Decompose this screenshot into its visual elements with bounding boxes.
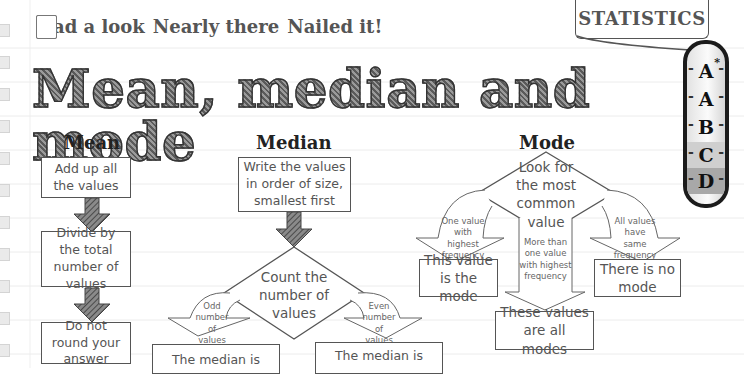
mean-step-2: Divide by the total number of values [41,231,131,287]
mode-result-one: This value is the mode [419,259,498,297]
mode-result-all: There is no mode [594,259,681,297]
mode-branch-many: More than one value with highest frequen… [519,237,572,283]
median-odd-result: The median is [152,344,280,374]
median-even-result: The median is [315,342,443,374]
mode-branch-all: All values have same frequency [612,216,658,262]
median-step-1: Write the values in order of size, small… [238,157,351,212]
mode-result-many: These values are all modes [495,311,594,350]
mean-step-1: Add up all the values [41,157,131,198]
mode-decision: Look for the most common value [508,158,584,231]
median-decision: Count the number of values [254,268,334,323]
median-odd-label: Odd number of values [193,301,231,347]
median-even-label: Even number of values [360,301,398,347]
mean-step-3: Do not round your answer [41,322,131,364]
